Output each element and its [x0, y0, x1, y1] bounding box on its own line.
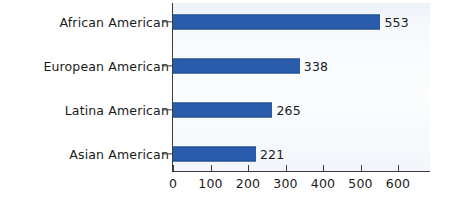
bar	[173, 103, 272, 118]
bar-value-label: 265	[276, 103, 300, 118]
x-axis-tick-label: 100	[198, 176, 222, 191]
category-tick	[163, 21, 173, 22]
bar-value-label: 221	[260, 147, 284, 162]
x-axis-tick	[361, 165, 362, 172]
bar-chart: 0100200300400500600 African American553E…	[0, 0, 452, 201]
x-axis-tick	[286, 165, 287, 172]
x-axis-tick-label: 600	[386, 176, 410, 191]
bar	[173, 59, 300, 74]
x-axis-tick-label: 400	[311, 176, 335, 191]
x-axis-tick	[173, 165, 174, 172]
category-label: African American	[60, 15, 169, 30]
bar	[173, 15, 380, 30]
x-axis-tick-label: 200	[236, 176, 260, 191]
x-axis-tick	[248, 165, 249, 172]
category-label: Asian American	[69, 147, 169, 162]
category-label: Latina American	[65, 103, 169, 118]
category-label: European American	[43, 59, 169, 74]
x-axis-tick-label: 300	[273, 176, 297, 191]
x-axis-tick	[398, 165, 399, 172]
category-tick	[163, 109, 173, 110]
x-axis-tick-label: 500	[348, 176, 372, 191]
bar-value-label: 338	[304, 59, 328, 74]
bar-value-label: 553	[384, 15, 408, 30]
bar	[173, 147, 256, 162]
category-tick	[163, 153, 173, 154]
x-axis-tick	[323, 165, 324, 172]
x-axis-tick	[211, 165, 212, 172]
category-tick	[163, 65, 173, 66]
x-axis-tick-label: 0	[169, 176, 177, 191]
